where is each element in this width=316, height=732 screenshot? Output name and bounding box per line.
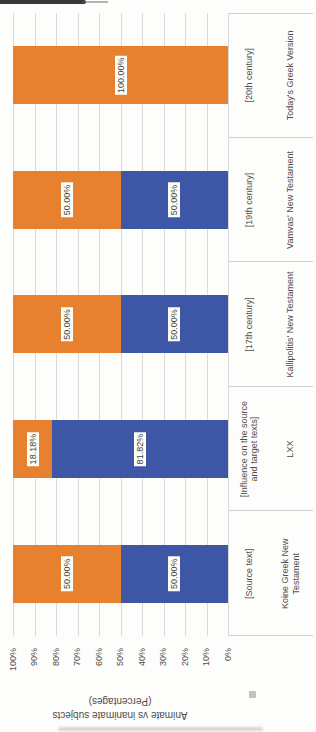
scan-artifact-top-edge [0,0,86,4]
y-axis-tick-label: 20% [180,648,191,696]
data-label: 100.00% [115,56,127,96]
data-label: 50.00% [168,183,180,218]
category-group-label: [Influence on the source and target text… [231,387,267,512]
category-name-label: Vamvas' New Testament [268,138,313,263]
y-axis-tick-label: 80% [51,648,62,696]
plot-area: 50.00%50.00%81.82%18.18%50.00%50.00%50.0… [13,13,228,636]
category-name-label: Koine Greek New Testament [268,511,313,636]
y-axis-tick-label: 0% [223,648,234,696]
data-label: 50.00% [168,556,180,591]
scan-artifact-speck [249,691,256,698]
y-axis-tick-label: 100% [8,648,19,696]
category-group-label: [19th century] [231,138,267,263]
y-axis-tick-label: 60% [94,648,105,696]
category-name-label: LXX [268,387,313,512]
scan-artifact-bottom-edge [58,727,263,731]
stacked-bar-chart: Animate vs inanimate subjects (Percentag… [0,0,316,732]
category-name-label: Today's Greek Version [268,13,313,138]
category-group-label: [Source text] [231,511,267,636]
y-axis-tick-label: 10% [201,648,212,696]
data-label: 81.82% [134,432,146,467]
data-label: 50.00% [61,307,73,342]
data-label: 50.00% [61,183,73,218]
data-label: 18.18% [27,432,39,467]
y-axis-tick-label: 90% [29,648,40,696]
data-label: 50.00% [168,307,180,342]
y-axis-tick-label: 40% [137,648,148,696]
y-axis-tick-label: 50% [115,648,126,696]
category-name-label: Kallipolitis' New Testament [268,262,313,387]
data-label: 50.00% [61,556,73,591]
category-group-label: [17th century] [231,262,267,387]
scan-artifact-top-edge-fade [82,1,108,3]
figure-scan: Animate vs inanimate subjects (Percentag… [0,0,316,732]
category-axis-area: [Source text]Koine Greek New Testament[I… [228,13,316,636]
category-group-label: [20th century] [231,13,267,138]
y-axis-tick-label: 30% [158,648,169,696]
y-axis-tick-label: 70% [72,648,83,696]
